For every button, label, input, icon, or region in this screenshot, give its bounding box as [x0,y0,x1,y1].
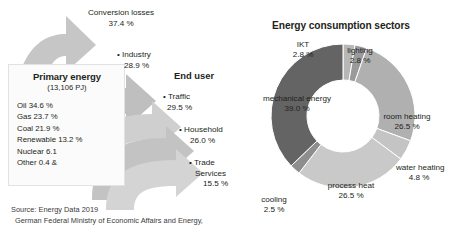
panel-title: Primary energy [17,71,117,82]
flow-value: 37.4 % [88,19,154,30]
slice-label-room-heating: room heating 26.5 % [370,112,444,133]
slice-value: 2.5 % [250,205,298,215]
slice-label-process-heat: process heat 26.5 % [314,181,388,202]
energy-flow-diagram: Primary energy (13,106 PJ) Oil 34.6 % Ga… [0,0,240,210]
slice-name: water heating [396,163,442,173]
slice-value: 2.8 % [334,56,386,66]
slice-name: cooling [250,195,298,205]
label-household: • Household 26.0 % [179,125,223,146]
source-citation: Source: Energy Data 2019 German Federal … [11,204,203,226]
slice-value: 39.0 % [260,104,334,114]
primary-energy-list: Oil 34.6 % Gas 23.7 % Coal 21.9 % Renewa… [17,100,117,168]
list-item: Renewable 13.2 % [17,134,117,145]
list-item: Nuclear 6.1 [17,146,117,157]
slice-name: room heating [370,112,444,122]
figure-canvas: Primary energy (13,106 PJ) Oil 34.6 % Ga… [0,0,452,246]
flow-value: 26.0 % [179,136,223,147]
flow-label: • Household [179,125,223,136]
panel-subtitle: (13,106 PJ) [17,82,117,93]
slice-label-mechanical-energy: mechanical energy 39.0 % [260,94,334,115]
label-industry: • Industry 28.9 % [117,50,151,71]
slice-label-cooling: cooling 2.5 % [250,195,298,216]
slice-name: process heat [314,181,388,191]
source-line: German Federal Ministry of Economic Affa… [11,215,203,226]
slice-label-ikt: IKT 2.8 % [283,40,323,61]
slice-value: 26.5 % [370,122,444,132]
list-item: Other 0.4 & [17,157,117,168]
slice-name: mechanical energy [260,94,334,104]
flow-label: • Traffic [163,92,192,103]
slice-value: 4.8 % [396,173,442,183]
energy-consumption-chart: Energy consumption sectors mechanical en… [230,0,452,246]
slice-label-water-heating: water heating 4.8 % [396,163,442,184]
flow-value: 29.5 % [163,103,192,114]
flow-label: Conversion losses [88,8,154,19]
label-traffic: • Traffic 29.5 % [163,92,192,113]
slice-value: 26.5 % [314,191,388,201]
flow-label-2: Services [189,169,228,180]
flow-value: 15.5 % [189,179,228,190]
primary-energy-panel: Primary energy (13,106 PJ) Oil 34.6 % Ga… [8,64,125,186]
flow-value: 28.9 % [117,61,151,72]
list-item: Oil 34.6 % [17,100,117,111]
slice-value: 2.8 % [283,50,323,60]
list-item: Coal 21.9 % [17,123,117,134]
label-conversion-losses: Conversion losses 37.4 % [88,8,154,29]
list-item: Gas 23.7 % [17,111,117,122]
label-trade-services: • Trade Services 15.5 % [189,158,228,190]
flow-label: • Trade [189,158,228,169]
slice-label-lighting: lighting 2.8 % [334,46,386,67]
flow-label: • Industry [117,50,151,61]
chart-title: Energy consumption sectors [230,20,452,31]
source-line: Source: Energy Data 2019 [11,204,203,215]
slice-name: IKT [283,40,323,50]
end-user-header: End user [174,70,214,81]
slice-name: lighting [334,46,386,56]
